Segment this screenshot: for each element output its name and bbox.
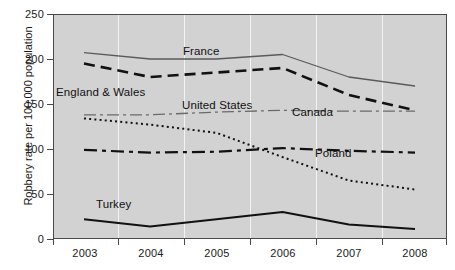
series-label-canada: Canada [292,106,333,118]
xtick-label-2005: 2005 [187,247,247,259]
xtick-mark-1 [118,239,119,245]
xtick-label-2003: 2003 [55,247,115,259]
chart-figure: 250 200 150 100 50 0 2003 2004 2005 2006… [0,0,455,270]
gridline-2005-2006 [250,15,251,238]
xtick-mark-4 [316,239,317,245]
ytick-mark-200 [47,59,53,60]
series-label-united-states: United States [182,99,252,111]
ytick-mark-150 [47,104,53,105]
series-label-england-and-wales: England & Wales [56,86,145,98]
y-axis-title: Robbery rate per 100,000 population [22,0,34,236]
xtick-mark-3 [250,239,251,245]
xtick-mark-2 [184,239,185,245]
series-label-france: France [183,45,219,57]
xtick-mark-5 [382,239,383,245]
xtick-mark-left-edge [53,239,54,245]
xtick-label-2007: 2007 [319,247,379,259]
gridline-2006-2007 [316,15,317,238]
ytick-mark-50 [47,194,53,195]
ytick-mark-250 [47,14,53,15]
series-label-poland: Poland [315,147,351,159]
series-label-turkey: Turkey [96,198,131,210]
xtick-label-2006: 2006 [253,247,313,259]
xtick-label-2004: 2004 [121,247,181,259]
gridline-2007-2008 [382,15,383,238]
xtick-mark-right-edge [446,239,447,245]
ytick-mark-100 [47,149,53,150]
xtick-label-2008: 2008 [385,247,445,259]
